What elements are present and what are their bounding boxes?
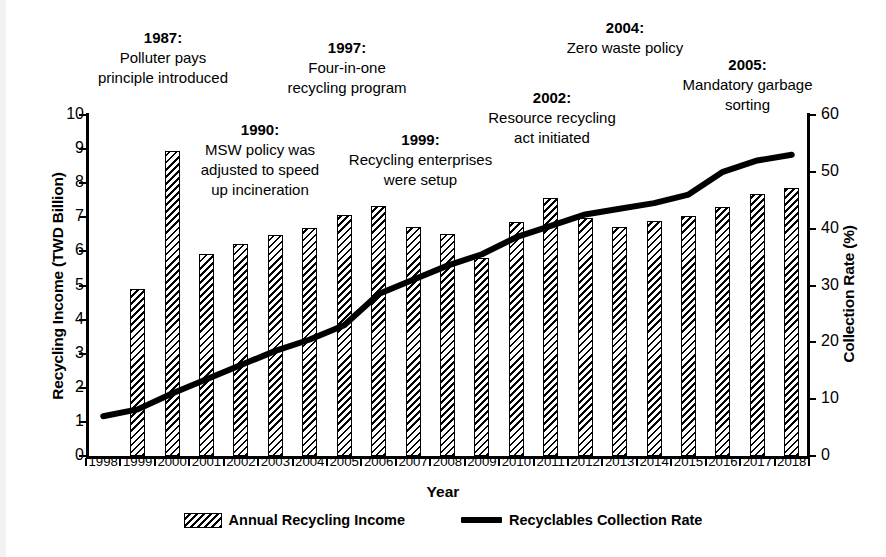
- annotation-2004: 2004:Zero waste policy: [500, 18, 750, 58]
- legend-label-line: Recyclables Collection Rate: [509, 512, 702, 528]
- chart-figure: Recycling Income (TWD Billion) Collectio…: [0, 0, 886, 557]
- bar-2006: [371, 206, 386, 456]
- y-tick-right: [809, 398, 816, 400]
- chart-legend: Annual Recycling Income Recyclables Coll…: [0, 512, 886, 528]
- y-tick-right: [809, 228, 816, 230]
- y-tick-label-left: 9: [24, 140, 84, 156]
- annotation-text: Zero waste policy: [567, 39, 684, 56]
- x-tick-label: 2018: [772, 455, 812, 469]
- annotation-year: 2004:: [500, 18, 750, 38]
- y-tick-right: [809, 171, 816, 173]
- bar-2003: [268, 235, 283, 456]
- y-tick-label-left: 1: [24, 413, 84, 429]
- y-tick-label-left: 0: [24, 447, 84, 463]
- bar-2010: [509, 222, 524, 456]
- bar-2009: [474, 258, 489, 456]
- y-tick-right: [809, 285, 816, 287]
- y-tick-label-left: 4: [24, 311, 84, 327]
- bar-2016: [715, 207, 730, 456]
- y-tick-label-left: 10: [24, 106, 84, 122]
- bar-2008: [440, 234, 455, 456]
- y-tick-label-left: 8: [24, 174, 84, 190]
- y-tick-label-right: 50: [821, 163, 881, 179]
- annotation-text: Resource recycling act initiated: [488, 109, 616, 146]
- annotation-2002: 2002:Resource recycling act initiated: [452, 88, 652, 148]
- y-tick-label-right: 30: [821, 277, 881, 293]
- y-tick-label-right: 10: [821, 390, 881, 406]
- annotation-year: 1997:: [252, 38, 442, 58]
- annotation-text: Polluter pays principle introduced: [98, 49, 228, 86]
- bar-2017: [750, 194, 765, 456]
- legend-label-bar: Annual Recycling Income: [229, 512, 405, 528]
- annotation-year: 1987:: [58, 28, 268, 48]
- bar-2013: [612, 227, 627, 456]
- bar-2014: [647, 221, 662, 456]
- annotation-text: MSW policy was adjusted to speed up inci…: [201, 141, 319, 198]
- bar-2002: [233, 244, 248, 456]
- bar-2018: [784, 188, 799, 456]
- bar-1999: [130, 289, 145, 456]
- y-tick-label-left: 7: [24, 208, 84, 224]
- y-tick-right: [809, 341, 816, 343]
- bar-2004: [302, 228, 317, 456]
- bar-2012: [578, 218, 593, 456]
- y-tick-label-left: 2: [24, 379, 84, 395]
- legend-item-bar: Annual Recycling Income: [184, 512, 405, 528]
- bar-2011: [543, 198, 558, 456]
- bar-2007: [406, 227, 421, 456]
- bar-2015: [681, 216, 696, 456]
- annotation-text: Mandatory garbage sorting: [682, 76, 812, 113]
- annotation-2005: 2005:Mandatory garbage sorting: [640, 55, 855, 115]
- y-tick-label-left: 3: [24, 345, 84, 361]
- hatched-bar-swatch-icon: [184, 513, 222, 528]
- solid-line-swatch-icon: [461, 517, 502, 523]
- annotation-1987: 1987:Polluter pays principle introduced: [58, 28, 268, 88]
- x-axis-title: Year: [0, 483, 886, 501]
- y-axis-left-line: [86, 113, 89, 458]
- annotation-1997: 1997:Four-in-one recycling program: [252, 38, 442, 98]
- annotation-year: 2002:: [452, 88, 652, 108]
- annotation-text: Recycling enterprises were setup: [349, 151, 492, 188]
- annotation-text: Four-in-one recycling program: [287, 59, 406, 96]
- y-tick-label-right: 0: [821, 447, 881, 463]
- y-tick-label-left: 5: [24, 277, 84, 293]
- y-tick-label-right: 40: [821, 220, 881, 236]
- y-tick-label-right: 20: [821, 333, 881, 349]
- y-tick-label-left: 6: [24, 242, 84, 258]
- legend-item-line: Recyclables Collection Rate: [461, 512, 702, 528]
- bar-2005: [337, 215, 352, 456]
- annotation-year: 2005:: [640, 55, 855, 75]
- left-edge-artifact: [0, 0, 6, 557]
- bar-2001: [199, 254, 214, 456]
